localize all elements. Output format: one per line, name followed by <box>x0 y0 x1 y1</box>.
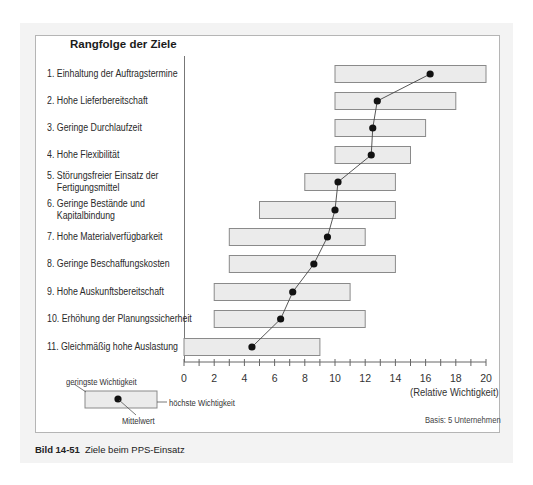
basis-note: Basis: 5 Unternehmen <box>425 415 501 425</box>
mean-dot <box>368 151 375 158</box>
legend-max-label: höchste Wichtigkeit <box>169 398 235 408</box>
legend-mean-label: Mittelwert <box>122 416 155 426</box>
x-tick-label: 16 <box>416 372 436 384</box>
range-bar <box>335 120 426 137</box>
range-bar <box>214 311 365 328</box>
x-tick-label: 6 <box>265 372 285 384</box>
range-bar <box>305 174 396 191</box>
x-tick-label: 4 <box>234 372 254 384</box>
x-axis-title: (Relative Wichtigkeit) <box>410 386 499 398</box>
range-bar <box>229 229 365 246</box>
mean-dot <box>310 260 317 267</box>
x-tick-label: 18 <box>446 372 466 384</box>
figure-number: Bild 14-51 <box>35 444 80 455</box>
range-bar <box>260 202 396 219</box>
x-tick-label: 8 <box>295 372 315 384</box>
range-bar-plot <box>0 0 533 485</box>
x-tick-label: 0 <box>174 372 194 384</box>
range-bar <box>214 284 350 301</box>
mean-dot <box>369 124 376 131</box>
legend-min-label: geringste Wichtigkeit <box>66 377 137 387</box>
mean-dot <box>334 178 341 185</box>
figure-caption-text: Ziele beim PPS-Einsatz <box>85 444 185 455</box>
mean-dot <box>331 206 338 213</box>
mean-dot <box>289 288 296 295</box>
x-tick-label: 10 <box>325 372 345 384</box>
mean-dot <box>277 315 284 322</box>
range-bar <box>335 66 486 83</box>
x-tick-label: 12 <box>355 372 375 384</box>
x-tick-label: 2 <box>204 372 224 384</box>
range-bar <box>335 93 456 110</box>
mean-dot <box>374 97 381 104</box>
figure-caption: Bild 14-51Ziele beim PPS-Einsatz <box>35 444 185 455</box>
x-tick-label: 20 <box>476 372 496 384</box>
mean-dot <box>248 343 255 350</box>
mean-dot <box>427 70 434 77</box>
x-tick-label: 14 <box>385 372 405 384</box>
mean-dot <box>324 233 331 240</box>
